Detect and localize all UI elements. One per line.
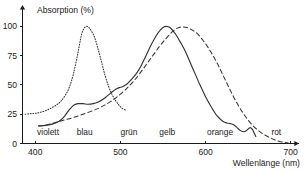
y-tick-label: 100 — [3, 21, 18, 31]
y-tick-labels: 0255075100 — [3, 21, 18, 148]
y-tick-label: 25 — [7, 109, 17, 119]
band-label-violett: violett — [37, 127, 60, 137]
x-tick-label: 500 — [113, 147, 128, 157]
band-label-orange: orange — [207, 127, 233, 137]
x-axis-arrowhead — [294, 141, 299, 146]
dotted-curve — [25, 26, 125, 114]
band-label-blau: blau — [77, 127, 93, 137]
y-axis-arrowhead — [20, 5, 25, 10]
band-label-grün: grün — [121, 127, 138, 137]
x-tick-label: 400 — [28, 147, 43, 157]
chart-canvas: 0255075100 400500600700 violettblaugrüng… — [0, 0, 307, 171]
y-tick-label: 50 — [7, 80, 17, 90]
x-tick-label: 600 — [198, 147, 213, 157]
band-label-gelb: gelb — [159, 127, 175, 137]
y-axis-title: Absorption (%) — [37, 5, 94, 15]
x-tick-label: 700 — [284, 147, 299, 157]
band-label-rot: rot — [271, 127, 281, 137]
tick-marks — [20, 26, 291, 143]
x-tick-labels: 400500600700 — [28, 147, 298, 157]
y-tick-label: 75 — [7, 51, 17, 61]
y-tick-label: 0 — [12, 139, 17, 149]
absorption-spectrum-figure: 0255075100 400500600700 violettblaugrüng… — [0, 0, 307, 171]
x-axis-title: Wellenlänge (nm) — [233, 158, 300, 168]
curves — [25, 26, 288, 143]
axes — [20, 5, 299, 146]
solid-curve — [39, 26, 256, 136]
dashed-curve — [39, 27, 289, 143]
